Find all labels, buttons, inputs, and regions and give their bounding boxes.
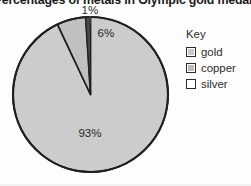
page-title: Percentages of metals in Olympic gold me… (0, 0, 251, 7)
scan-edge-artifact (0, 184, 251, 186)
slice-label-silver: 1% (79, 4, 101, 16)
legend-swatch-gold (186, 47, 196, 57)
legend-item-copper: copper (186, 60, 250, 76)
legend-label: gold (201, 46, 223, 58)
legend-label: silver (201, 78, 228, 90)
legend-item-silver: silver (186, 76, 250, 92)
legend-heading: Key (186, 28, 250, 40)
pie-chart-svg (11, 15, 170, 174)
slice-label-gold: 93% (72, 127, 108, 139)
legend-item-gold: gold (186, 44, 250, 60)
pie-chart (11, 15, 170, 174)
legend-swatch-silver (186, 79, 196, 89)
legend-swatch-copper (186, 63, 196, 73)
silver-label-leader-line (89, 16, 91, 25)
legend-label: copper (201, 62, 236, 74)
legend: Key goldcoppersilver (186, 28, 250, 92)
pie-chart-figure: Percentages of metals in Olympic gold me… (0, 0, 251, 186)
slice-label-copper: 6% (95, 27, 117, 39)
